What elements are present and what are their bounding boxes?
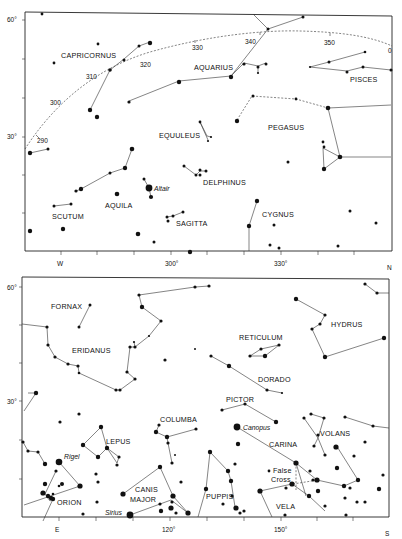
x-label-e: E xyxy=(55,526,60,533)
label-false: False xyxy=(273,466,292,475)
ecliptic-label-340: 340 xyxy=(245,38,256,45)
ecliptic-label-310: 310 xyxy=(86,73,97,80)
label-canopus: Canopus xyxy=(243,424,271,432)
altair-star xyxy=(146,185,153,192)
northern-sky-chart: 60° 30° W 300° 330° N 290 300 310 320 33… xyxy=(7,12,393,271)
x-label-120: 120° xyxy=(162,526,176,533)
x-label-n: N xyxy=(387,264,392,271)
label-volans: VOLANS xyxy=(320,429,350,438)
label-altair: Altair xyxy=(153,185,170,192)
x-label-330: 330° xyxy=(274,260,288,267)
ecliptic-label-0: 0 xyxy=(388,47,392,54)
label-fornax: FORNAX xyxy=(51,302,82,311)
x-label-w: W xyxy=(57,260,64,267)
x-label-300: 300° xyxy=(165,260,179,267)
label-columba: COLUMBA xyxy=(160,415,197,424)
label-reticulum: RETICULUM xyxy=(239,333,283,342)
ecliptic-label-320: 320 xyxy=(140,61,151,68)
label-vela: VELA xyxy=(276,502,295,511)
label-aquarius: AQUARIUS xyxy=(194,63,233,72)
y-label-60: 60° xyxy=(7,284,17,291)
ecliptic-line xyxy=(25,31,392,149)
label-canis: CANIS xyxy=(135,485,158,494)
ecliptic-label-330: 330 xyxy=(192,44,203,51)
sirius-star xyxy=(127,512,134,519)
ecliptic-label-300: 300 xyxy=(50,99,61,106)
label-pegasus: PEGASUS xyxy=(268,123,304,132)
label-cygnus: CYGNUS xyxy=(262,210,294,219)
label-sirius: Sirius xyxy=(105,509,123,516)
label-delphinus: DELPHINUS xyxy=(203,178,246,187)
label-scutum: SCUTUM xyxy=(52,212,84,221)
label-orion: ORION xyxy=(57,498,82,507)
ecliptic-label-290: 290 xyxy=(37,137,48,144)
top-x-axis-ticks xyxy=(61,251,354,255)
label-pisces: PISCES xyxy=(350,75,378,84)
canopus-star xyxy=(234,424,241,431)
x-label-150: 150° xyxy=(274,526,288,533)
bottom-x-axis-ticks xyxy=(59,517,353,521)
label-cross: Cross xyxy=(271,475,291,484)
label-lepus: LEPUS xyxy=(106,437,131,446)
star-chart-figure: 60° 30° W 300° 330° N 290 300 310 320 33… xyxy=(0,0,402,539)
top-constellation-lines xyxy=(30,14,391,251)
bottom-labels: 60° 30° E 120° 150° S FORNAX ERIDANUS RE… xyxy=(7,284,390,537)
label-hydrus: HYDRUS xyxy=(331,320,363,329)
bottom-chart-frame xyxy=(22,277,389,517)
southern-sky-chart: 60° 30° E 120° 150° S FORNAX ERIDANUS RE… xyxy=(7,277,390,537)
label-pictor: PICTOR xyxy=(226,395,254,404)
label-eridanus: ERIDANUS xyxy=(72,346,111,355)
label-sagitta: SAGITTA xyxy=(176,219,208,228)
label-equuleus: EQUULEUS xyxy=(159,131,200,140)
label-aquila: AQUILA xyxy=(105,201,133,210)
label-major: MAJOR xyxy=(130,495,156,504)
label-carina: CARINA xyxy=(269,440,297,449)
top-labels: 60° 30° W 300° 330° N 290 300 310 320 33… xyxy=(7,16,392,271)
y-label-30: 30° xyxy=(7,133,17,140)
y-label-30: 30° xyxy=(7,398,17,405)
label-dorado: DORADO xyxy=(258,375,291,384)
rigel-star xyxy=(56,459,63,466)
label-puppis: PUPPIS xyxy=(206,492,234,501)
label-capricornus: CAPRICORNUS xyxy=(61,51,116,60)
y-label-60: 60° xyxy=(7,16,17,23)
ecliptic-label-350: 350 xyxy=(324,39,335,46)
x-label-s: S xyxy=(385,530,390,537)
label-rigel: Rigel xyxy=(64,453,80,461)
